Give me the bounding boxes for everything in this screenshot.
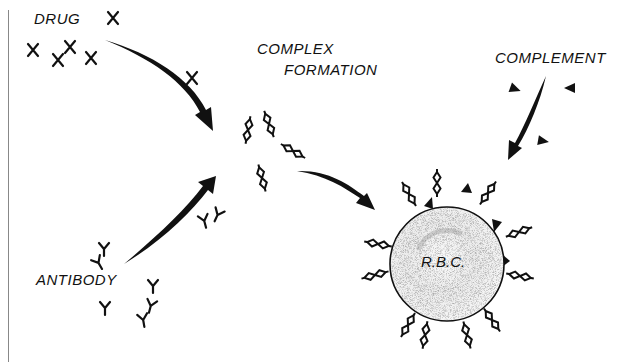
complex-formation-label-line1: COMPLEX	[257, 40, 334, 57]
rbc-label: R.B.C.	[421, 253, 465, 270]
complement-label: COMPLEMENT	[495, 49, 606, 66]
drug-label: DRUG	[34, 10, 80, 27]
diagram: DRUG ANTIBODY COMPLEX FORMATION COMPLEME…	[0, 0, 635, 362]
antibody-label: ANTIBODY	[36, 271, 117, 288]
antibody-molecules	[91, 207, 224, 327]
drug-to-complex-arrow	[105, 40, 213, 131]
immune-complexes	[242, 110, 307, 193]
complex-formation-label-line2: FORMATION	[284, 61, 377, 78]
complex-to-rbc-arrow	[297, 171, 375, 210]
